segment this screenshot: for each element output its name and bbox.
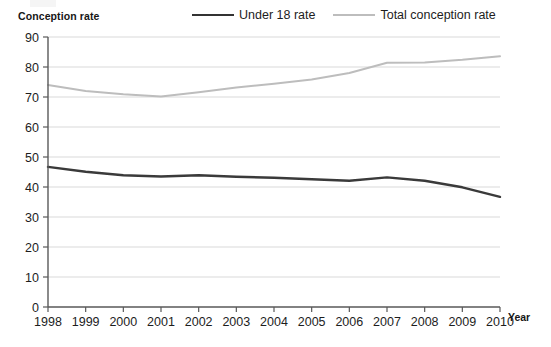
y-tick-label: 70 [25,91,39,105]
y-tick-label: 90 [25,31,39,45]
y-axis-ticks [43,37,48,307]
y-tick-label: 60 [25,121,39,135]
series-line-under-18-rate [48,167,500,197]
x-tick-label: 2002 [185,315,213,329]
x-tick-label: 1999 [72,315,100,329]
gridlines [48,37,500,277]
y-tick-label: 10 [25,271,39,285]
conception-rate-chart: Conception rate Under 18 rate Total conc… [0,0,551,347]
x-axis-ticks [48,307,500,312]
plot-area: 0102030405060708090 19981999200020012002… [0,0,551,347]
y-tick-label: 40 [25,181,39,195]
x-tick-label: 2008 [411,315,439,329]
y-axis-tick-labels: 0102030405060708090 [25,31,39,315]
x-tick-label: 1998 [34,315,62,329]
x-tick-label: 2003 [222,315,250,329]
y-tick-label: 0 [32,301,39,315]
series-line-total-conception-rate [48,56,500,96]
chart-svg: 0102030405060708090 19981999200020012002… [0,0,551,347]
y-tick-label: 50 [25,151,39,165]
x-tick-label: 2004 [260,315,288,329]
x-tick-label: 2005 [298,315,326,329]
y-tick-label: 80 [25,61,39,75]
x-tick-label: 2007 [373,315,401,329]
x-tick-label: 2009 [448,315,476,329]
x-tick-label: 2000 [109,315,137,329]
x-tick-label: 2006 [335,315,363,329]
x-axis-tick-labels: 1998199920002001200220032004200520062007… [34,315,514,329]
x-tick-label: 2001 [147,315,175,329]
x-axis-title: Year [508,311,530,323]
y-tick-label: 20 [25,241,39,255]
y-tick-label: 30 [25,211,39,225]
